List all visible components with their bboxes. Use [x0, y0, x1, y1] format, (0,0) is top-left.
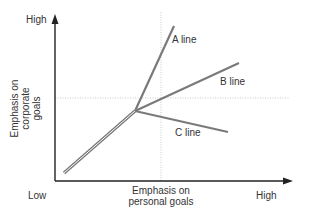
x-axis-title-line-2: personal goals [121, 196, 201, 207]
y-axis-arrow-icon [52, 14, 59, 24]
y-axis-high-label: High [26, 14, 47, 25]
x-axis-low-label: Low [28, 190, 46, 201]
y-axis-title-line-3: goals [31, 77, 42, 141]
y-axis-title-line-1: Emphasis on [9, 77, 20, 141]
c-line-label: C line [175, 127, 201, 138]
b-line-label: B line [220, 76, 245, 87]
a-line-label: A line [172, 34, 196, 45]
x-axis-arrow-icon [283, 178, 293, 185]
base-double-line [64, 111, 135, 173]
y-axis-title: Emphasis on corporate goals [9, 77, 42, 141]
b-line [135, 63, 239, 111]
x-axis-title: Emphasis on personal goals [121, 185, 201, 207]
x-axis-high-label: High [256, 190, 277, 201]
x-axis-title-line-1: Emphasis on [121, 185, 201, 196]
y-axis-title-line-2: corporate [20, 77, 31, 141]
